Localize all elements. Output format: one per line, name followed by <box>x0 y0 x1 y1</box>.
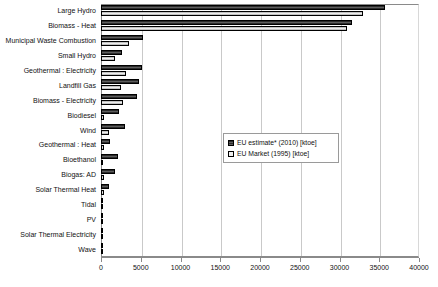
bar-market-1995 <box>101 249 103 254</box>
bar-market-1995 <box>101 130 109 135</box>
bar-estimate-2010 <box>101 79 139 84</box>
bar-group <box>101 212 419 227</box>
category-label: Small Hydro <box>58 52 96 60</box>
bar-group <box>101 34 419 49</box>
x-axis-tick <box>141 258 142 262</box>
category-label: Biomass - Electricity <box>33 97 96 105</box>
legend-item: EU estimate* (2010) [ktoe] <box>228 137 334 148</box>
bar-estimate-2010 <box>101 50 122 55</box>
bar-group <box>101 183 419 198</box>
x-axis-tick <box>419 258 420 262</box>
bar-estimate-2010 <box>101 169 115 174</box>
bar-estimate-2010 <box>101 109 119 114</box>
category-label: Tidal <box>81 201 96 209</box>
bar-market-1995 <box>101 175 104 180</box>
bar-group <box>101 64 419 79</box>
bar-estimate-2010 <box>101 243 103 248</box>
bar-market-1995 <box>101 71 126 76</box>
bar-market-1995 <box>101 100 123 105</box>
bar-estimate-2010 <box>101 94 137 99</box>
bar-market-1995 <box>101 145 104 150</box>
legend-item: EU Market (1995) [ktoe] <box>228 148 334 159</box>
bar-rows <box>101 4 419 257</box>
bar-market-1995 <box>101 190 104 195</box>
bar-estimate-2010 <box>101 154 118 159</box>
legend-label: EU Market (1995) [ktoe] <box>237 150 309 158</box>
category-label: Municipal Waste Combustion <box>6 37 96 45</box>
x-axis-tick <box>220 258 221 262</box>
category-label: Solar Thermal Electricity <box>20 231 96 239</box>
bar-estimate-2010 <box>101 184 109 189</box>
bar-group <box>101 242 419 257</box>
category-label: Biomass - Heat <box>48 22 96 30</box>
category-axis-labels: Large HydroBiomass - HeatMunicipal Waste… <box>0 4 99 257</box>
category-label: Geothermal : Electricity <box>24 67 96 75</box>
legend-label: EU estimate* (2010) [ktoe] <box>237 139 317 147</box>
x-axis-tick <box>181 258 182 262</box>
bar-market-1995 <box>101 85 121 90</box>
legend-swatch-icon <box>228 151 234 157</box>
category-label: PV <box>87 216 96 224</box>
bar-market-1995 <box>101 234 103 239</box>
x-axis-tick <box>101 258 102 262</box>
bar-group <box>101 49 419 64</box>
category-label: Landfill Gas <box>59 82 96 90</box>
bar-market-1995 <box>101 115 104 120</box>
bar-group <box>101 93 419 108</box>
bar-estimate-2010 <box>101 198 103 203</box>
bar-estimate-2010 <box>101 5 385 10</box>
bar-estimate-2010 <box>101 213 103 218</box>
x-axis-tick <box>340 258 341 262</box>
bar-market-1995 <box>101 11 363 16</box>
bar-market-1995 <box>101 204 103 209</box>
bar-estimate-2010 <box>101 139 110 144</box>
bar-group <box>101 78 419 93</box>
category-label: Biogas: AD <box>61 171 96 179</box>
bar-market-1995 <box>101 41 129 46</box>
x-axis-tick <box>300 258 301 262</box>
x-axis-tick-label: 40000 <box>396 263 438 272</box>
category-label: Bioethanol <box>63 156 96 164</box>
x-axis-tick <box>379 258 380 262</box>
x-axis-tick <box>260 258 261 262</box>
category-label: Biodiesel <box>68 112 96 120</box>
bar-group <box>101 168 419 183</box>
bar-market-1995 <box>101 56 115 61</box>
x-axis-ticks <box>101 258 419 262</box>
category-label: Wave <box>78 246 96 254</box>
legend-swatch-icon <box>228 140 234 146</box>
category-label: Solar Thermal Heat <box>35 186 96 194</box>
bar-group <box>101 197 419 212</box>
bar-group <box>101 108 419 123</box>
bar-estimate-2010 <box>101 228 103 233</box>
bar-group <box>101 4 419 19</box>
bar-group <box>101 19 419 34</box>
category-label: Large Hydro <box>57 7 96 15</box>
category-label: Geothermal : Heat <box>39 141 96 149</box>
category-label: Wind <box>80 127 96 135</box>
bar-estimate-2010 <box>101 65 142 70</box>
bar-estimate-2010 <box>101 20 352 25</box>
chart-legend: EU estimate* (2010) [ktoe] EU Market (19… <box>223 133 339 163</box>
bar-market-1995 <box>101 160 103 165</box>
bar-market-1995 <box>101 219 103 224</box>
bar-chart: Large HydroBiomass - HeatMunicipal Waste… <box>0 0 438 287</box>
x-axis-tick-labels: 0500010000150002000025000300003500040000 <box>0 263 438 275</box>
bar-estimate-2010 <box>101 124 125 129</box>
bar-group <box>101 227 419 242</box>
bar-market-1995 <box>101 26 347 31</box>
bar-estimate-2010 <box>101 35 143 40</box>
